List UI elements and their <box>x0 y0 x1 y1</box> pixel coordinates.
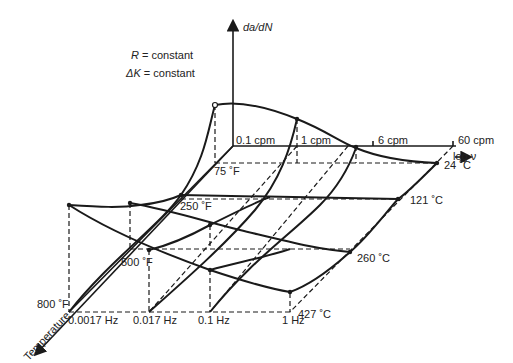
condition-dk: ΔK = constant <box>126 68 195 79</box>
label-121c: 121 ˚C <box>410 195 443 206</box>
label-250f: 250 ˚F <box>180 201 212 212</box>
temperature-axis-shaft <box>69 146 233 312</box>
label-0.1cpm: 0.1 cpm <box>236 135 275 146</box>
condition-r-symbol: R <box>131 49 139 61</box>
label-800f: 800 ˚F <box>37 299 69 310</box>
curve-freq-017 <box>149 119 297 312</box>
condition-r-text: = constant <box>142 49 193 61</box>
label-260c: 260 ˚C <box>357 253 390 264</box>
label-1cpm: 1 cpm <box>301 135 331 146</box>
label-75f: 75 ˚F <box>214 166 240 177</box>
label-24c: 24 ˚C <box>444 160 471 171</box>
label-60cpm: 60 cpm <box>458 135 494 146</box>
curve-0017-upper <box>69 195 181 207</box>
condition-r: R = constant <box>131 50 193 61</box>
label-500f: 500 ˚F <box>121 257 153 268</box>
dadn-axis-label: da/dN <box>243 22 272 33</box>
label-0.0017hz: 0.0017 Hz <box>68 315 118 326</box>
label-0.1hz: 0.1 Hz <box>198 315 230 326</box>
condition-dk-text: = constant <box>144 67 195 79</box>
node-open <box>213 103 218 108</box>
label-0.017hz: 0.017 Hz <box>133 315 177 326</box>
fatigue-surface-diagram <box>0 0 513 363</box>
condition-dk-symbol: ΔK <box>126 67 141 79</box>
curve-01-low <box>210 249 290 270</box>
label-427c: 427 ˚C <box>298 309 331 320</box>
label-6cpm: 6 cpm <box>378 135 408 146</box>
curve-freq-1 <box>290 163 437 292</box>
